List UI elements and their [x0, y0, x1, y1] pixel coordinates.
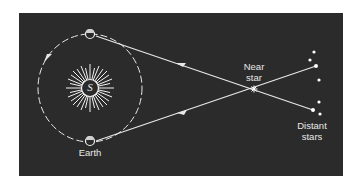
near-star-label-line2: star	[234, 72, 274, 83]
distant-stars-label: Distant stars	[290, 120, 334, 142]
near-star-icon	[251, 86, 258, 93]
distant-stars-label-line2: stars	[290, 131, 334, 142]
near-star-label: Near star	[234, 61, 274, 83]
sightline-top	[96, 36, 313, 110]
earth-label: Earth	[72, 147, 108, 158]
sightline-bottom	[96, 66, 316, 141]
earth-top-icon	[86, 29, 95, 39]
earth-bottom-icon	[86, 136, 95, 146]
parallax-diagram	[0, 0, 360, 186]
near-star-label-line1: Near	[234, 61, 274, 72]
sun-label: S	[84, 82, 96, 93]
distant-stars-icon	[308, 50, 321, 115]
distant-stars-label-line1: Distant	[290, 120, 334, 131]
orbit-direction-arrow-icon	[44, 54, 52, 62]
